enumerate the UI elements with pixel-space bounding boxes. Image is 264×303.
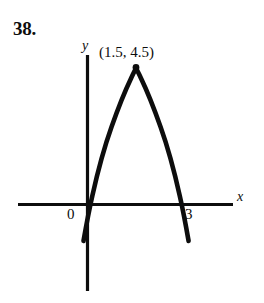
x-axis-label: x bbox=[237, 190, 243, 204]
y-axis-label: y bbox=[82, 39, 88, 53]
origin-tick-label: 0 bbox=[67, 207, 75, 222]
parabola-curve bbox=[84, 69, 189, 241]
vertex-point-marker bbox=[133, 64, 140, 71]
problem-number: 38. bbox=[13, 19, 36, 39]
figure-container: 38. y x 0 3 (1.5, 4.5) bbox=[0, 0, 264, 303]
x-root-tick-label: 3 bbox=[185, 207, 193, 222]
vertex-coordinate-label: (1.5, 4.5) bbox=[99, 44, 154, 60]
